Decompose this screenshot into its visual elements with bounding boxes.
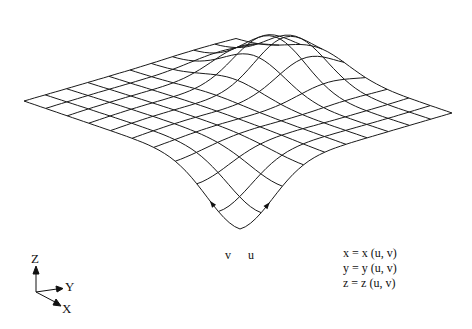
u-isoline — [24, 101, 240, 229]
z-axis-label: Z — [31, 251, 39, 266]
v-parameter-label: v — [225, 248, 231, 262]
equation-y: y = y (u, v) — [343, 261, 397, 276]
x-axis-label: X — [62, 301, 72, 316]
u-isoline — [215, 35, 431, 119]
u-isoline — [109, 76, 325, 152]
u-parameter-label: u — [248, 248, 254, 262]
surface-wireframe-mesh — [24, 35, 452, 229]
parametric-equations: x = x (u, v) y = y (u, v) z = z (u, v) — [343, 246, 397, 291]
v-isoline — [197, 98, 409, 184]
parametric-surface-figure: v u Z Y X — [0, 0, 472, 329]
y-axis-line — [36, 289, 57, 292]
axes-triad — [33, 266, 63, 306]
y-axis-label: Y — [65, 279, 75, 294]
x-axis-arrow-icon — [53, 299, 61, 306]
v-isoline — [175, 89, 387, 161]
u-isoline — [236, 39, 452, 114]
u-isoline — [194, 36, 410, 126]
z-axis-arrow-icon — [33, 266, 39, 274]
u-isoline — [66, 89, 282, 187]
v-arrowhead-icon — [210, 201, 216, 208]
v-isoline — [89, 35, 301, 124]
x-axis-line — [36, 292, 55, 302]
v-direction-arrow — [210, 201, 216, 208]
equation-x: x = x (u, v) — [343, 246, 397, 261]
u-isoline — [172, 54, 388, 132]
y-axis-arrow-icon — [56, 286, 63, 292]
equation-z: z = z (u, v) — [343, 276, 397, 291]
v-isoline — [67, 44, 279, 116]
